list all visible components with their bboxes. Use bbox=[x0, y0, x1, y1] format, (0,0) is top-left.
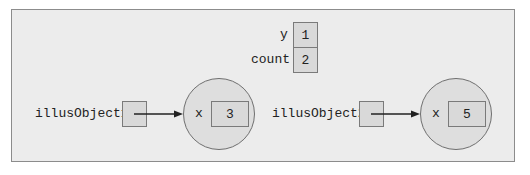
object-field-value-1: 3 bbox=[226, 107, 234, 122]
variable-value-count: 2 bbox=[302, 53, 310, 68]
variable-value-y: 1 bbox=[302, 28, 310, 43]
reference-box-illusObject2 bbox=[359, 101, 384, 127]
variable-cell-y: 1 bbox=[293, 22, 318, 48]
variable-label-count: count bbox=[251, 52, 290, 68]
object-field-label-1: x bbox=[195, 106, 203, 122]
object-field-label-2: x bbox=[432, 106, 440, 122]
variable-cell-count: 2 bbox=[293, 47, 318, 73]
object-field-box-2: 5 bbox=[448, 101, 486, 127]
variable-label-y: y bbox=[280, 27, 288, 43]
object-field-value-2: 5 bbox=[463, 107, 471, 122]
object-field-box-1: 3 bbox=[211, 101, 249, 127]
reference-label-illusObject2: illusObject2 bbox=[272, 106, 366, 122]
reference-label-illusObject1: illusObject1 bbox=[35, 106, 129, 122]
reference-box-illusObject1 bbox=[122, 101, 147, 127]
